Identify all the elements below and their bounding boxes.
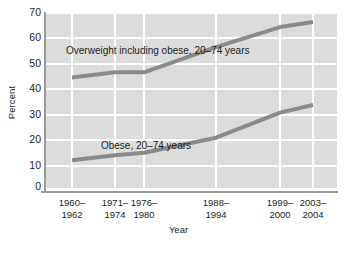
x-tick-1988-1994: 1988– 1994	[191, 197, 241, 220]
y-axis-line	[44, 12, 46, 191]
y-tick-60: 60	[16, 32, 41, 43]
y-tick-0: 0	[16, 181, 41, 192]
x-axis-line	[41, 191, 338, 193]
series-lines	[45, 12, 337, 190]
annotation-overweight-line1: Overweight including obese,	[66, 45, 192, 56]
x-tick-1976-1980: 1976– 1980	[119, 197, 169, 220]
x-tick-1988-1994-line2: 1994	[191, 209, 241, 221]
y-tick-30: 30	[16, 109, 41, 120]
x-tick-1976-1980-line2: 1980	[119, 209, 169, 221]
x-tick-2003-2004-line2: 2004	[288, 209, 338, 221]
line-obese	[72, 105, 313, 160]
y-tick-50: 50	[16, 58, 41, 69]
y-tick-70: 70	[16, 7, 41, 18]
chart-figure: Percent 70 60 50 40 30 20 10 0 1960– 196	[0, 0, 357, 256]
y-axis-title: Percent	[6, 73, 17, 133]
x-axis-title: Year	[0, 224, 357, 235]
plot-area	[45, 12, 337, 190]
x-tick-2003-2004: 2003– 2004	[288, 197, 338, 220]
x-tick-2003-2004-line1: 2003–	[288, 197, 338, 209]
y-tick-20: 20	[16, 134, 41, 145]
annotation-obese: Obese, 20–74 years	[76, 140, 216, 152]
y-tick-40: 40	[16, 83, 41, 94]
annotation-obese-line1: Obese, 20–74 years	[101, 140, 191, 151]
x-tick-1988-1994-line1: 1988–	[191, 197, 241, 209]
annotation-overweight-including-obese: Overweight including obese, 20–74 years	[66, 45, 236, 57]
y-tick-10: 10	[16, 160, 41, 171]
x-tick-1976-1980-line1: 1976–	[119, 197, 169, 209]
annotation-overweight-line2: 20–74 years	[194, 45, 249, 56]
